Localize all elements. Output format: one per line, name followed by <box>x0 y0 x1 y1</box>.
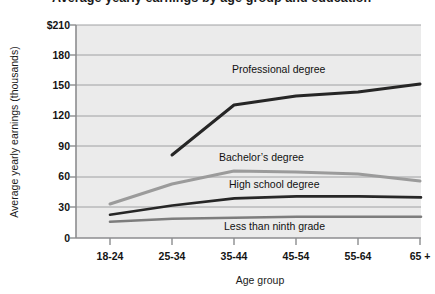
series-label-professional-degree: Professional degree <box>232 63 325 75</box>
x-tick-label: 65 + <box>390 250 435 262</box>
series-label-bachelors-degree: Bachelor’s degree <box>219 151 304 163</box>
x-axis-title: Age group <box>110 274 410 286</box>
series-label-high-school-degree: High school degree <box>229 178 319 190</box>
earnings-line-chart: Average yearly earnings by age group and… <box>0 0 435 294</box>
x-tick-label: 35-44 <box>204 250 264 262</box>
x-tick-label: 18-24 <box>80 250 140 262</box>
plot-background <box>76 25 421 238</box>
x-tick-label: 55-64 <box>328 250 388 262</box>
x-tick-label: 25-34 <box>142 250 202 262</box>
x-tick-label: 45-54 <box>266 250 326 262</box>
series-label-less-than-ninth-grade: Less than ninth grade <box>224 220 325 232</box>
